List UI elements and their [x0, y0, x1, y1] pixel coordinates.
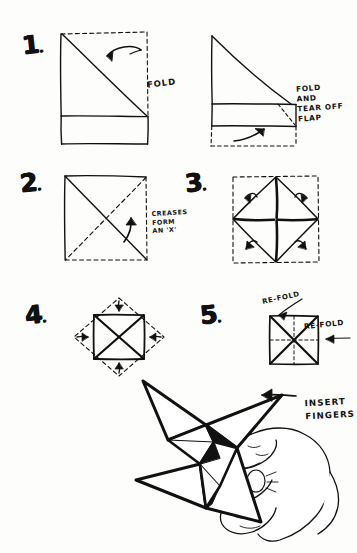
step-number-3: 3. [184, 167, 207, 198]
step-3-dot: . [201, 179, 206, 193]
label-creases-form-an-x: CREASES FORM AN 'X' [151, 208, 188, 236]
step-number-2: 2. [19, 167, 42, 198]
step-2-dot: . [36, 179, 41, 193]
label-fold-and-tear-off-flap: FOLD AND TEAR OFF FLAP [296, 81, 345, 124]
figure-square-with-x-creases [58, 170, 158, 270]
inward-arrow-left-icon [77, 333, 88, 341]
step-number-4: 4. [24, 299, 47, 330]
step-4-dot: . [41, 311, 46, 325]
tear-flap-arrow-icon [234, 129, 264, 142]
corner-arrow-bottom-right-icon [295, 241, 306, 249]
step-5-dot: . [216, 311, 221, 325]
step-2-digit: 2 [19, 167, 38, 198]
step-number-5: 5. [199, 299, 222, 330]
inward-arrow-right-icon [150, 333, 161, 341]
step-3-digit: 3 [184, 167, 203, 198]
step-1-dot: . [38, 41, 43, 55]
instruction-sheet: 1. FOLD [0, 0, 357, 553]
crease-arrow-icon [124, 218, 136, 242]
refold-right-arrow-icon [320, 332, 354, 346]
inward-arrow-top-icon [115, 301, 123, 311]
step-1-digit: 1 [21, 29, 40, 60]
step-number-1: 1. [21, 29, 44, 60]
figure-diamond-with-cross-and-corner-arrows [228, 172, 324, 268]
label-fold: FOLD [146, 76, 176, 91]
inward-arrow-bottom-icon [115, 363, 123, 373]
step-4-digit: 4 [24, 299, 43, 330]
label-insert-fingers: INSERT FINGERS [304, 395, 355, 423]
fold-arrow-icon [107, 47, 141, 61]
step-5-digit: 5 [199, 299, 218, 330]
